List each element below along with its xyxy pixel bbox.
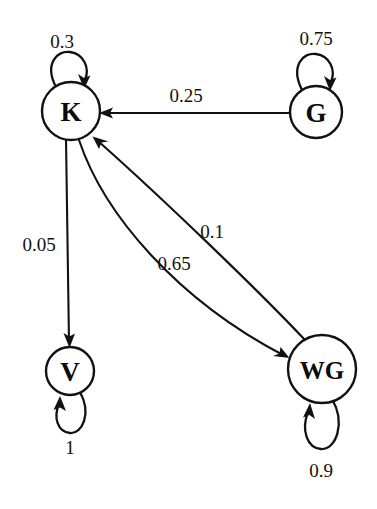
edge-label-wg-to-k: 0.1	[200, 221, 224, 242]
edge-label-k-to-v: 0.05	[22, 234, 55, 255]
node-v-label: V	[60, 357, 80, 387]
edge-k-to-v	[64, 139, 76, 348]
node-wg-label: WG	[300, 357, 344, 384]
edge-label-wg-self: 0.9	[309, 460, 333, 481]
edge-label-v-self: 1	[65, 437, 75, 458]
edge-label-g-self: 0.75	[299, 28, 332, 49]
self-loop-wg-arrowhead	[303, 403, 315, 419]
edge-k-to-wg-curve	[79, 140, 283, 355]
self-loop-g-path	[297, 54, 332, 90]
edge-label-k-self: 0.3	[50, 31, 74, 52]
node-v[interactable]: V	[46, 347, 94, 395]
node-k-label: K	[60, 97, 81, 127]
self-loop-wg	[303, 399, 339, 449]
node-wg[interactable]: WG	[288, 335, 356, 403]
edge-g-to-k	[99, 108, 289, 119]
edge-k-to-v-line	[66, 139, 69, 342]
edge-label-k-to-wg: 0.65	[157, 253, 190, 274]
edge-k-to-wg-arrowhead	[273, 347, 290, 358]
state-transition-diagram: K G V WG 0.3 0.75 0.25 0.05 0.1 0.65 1 0…	[0, 0, 377, 509]
node-g-label: G	[305, 98, 326, 128]
node-g[interactable]: G	[290, 86, 342, 138]
edge-label-g-to-k: 0.25	[169, 85, 202, 106]
edge-wg-to-k	[93, 137, 306, 341]
graph-canvas: K G V WG 0.3 0.75 0.25 0.05 0.1 0.65 1 0…	[0, 0, 377, 509]
self-loop-v-arrowhead	[54, 396, 67, 411]
self-loop-v	[54, 392, 86, 433]
node-k[interactable]: K	[42, 82, 100, 140]
edge-k-to-wg	[79, 140, 290, 358]
